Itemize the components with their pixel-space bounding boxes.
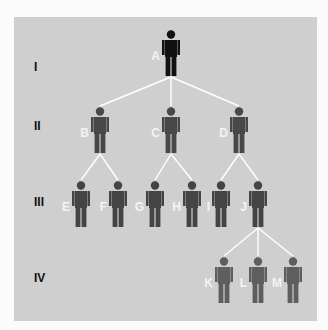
person-label: E: [62, 200, 70, 214]
generation-label: I: [34, 60, 37, 74]
generation-label: II: [34, 119, 41, 133]
person-icon: [230, 107, 248, 153]
person-icon: [162, 107, 180, 153]
generation-label: III: [34, 195, 44, 209]
person-label: J: [240, 200, 247, 214]
person-label: B: [80, 126, 89, 140]
person-icon: [212, 181, 230, 227]
person-icon: [215, 257, 233, 303]
person-icon: [183, 181, 201, 227]
connector-line: [171, 77, 239, 106]
person-icon: [146, 181, 164, 227]
connector-line: [224, 228, 258, 256]
connector-line: [155, 154, 171, 180]
person-label: L: [240, 276, 247, 290]
person-icon: [284, 257, 302, 303]
person-icon: [249, 181, 267, 227]
person-label: A: [151, 49, 160, 63]
person-label: F: [100, 200, 107, 214]
connector-line: [258, 228, 293, 256]
person-label: D: [219, 126, 228, 140]
connector-line: [239, 154, 258, 180]
connector-line: [221, 154, 239, 180]
connector-line: [81, 154, 100, 180]
connector-line: [100, 77, 171, 106]
person-label: I: [207, 200, 210, 214]
person-icon: [72, 181, 90, 227]
person-icon: [91, 107, 109, 153]
person-icon: [109, 181, 127, 227]
person-label: M: [272, 276, 282, 290]
person-label: H: [172, 200, 181, 214]
person-label: C: [151, 126, 160, 140]
person-icon: [249, 257, 267, 303]
generation-label: IV: [34, 271, 45, 285]
connector-line: [100, 154, 118, 180]
person-label: K: [204, 276, 213, 290]
person-icon: [162, 30, 180, 76]
person-label: G: [135, 200, 144, 214]
connector-line: [171, 154, 192, 180]
